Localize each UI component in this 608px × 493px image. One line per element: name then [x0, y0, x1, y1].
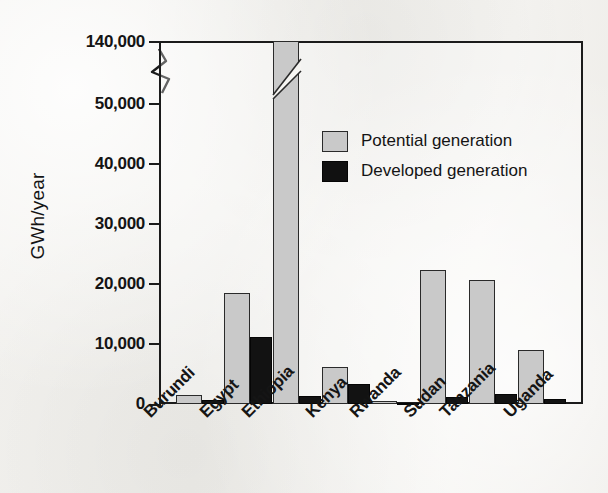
legend-item-potential: Potential generation [322, 126, 527, 156]
y-tick-label-140000: 140,000 [86, 32, 145, 51]
legend-swatch-developed-icon [322, 161, 348, 182]
y-tick-label-40000: 40,000 [95, 154, 145, 173]
bar-developed-uganda [544, 399, 566, 404]
legend: Potential generation Developed generatio… [322, 126, 527, 186]
legend-label-developed: Developed generation [361, 161, 527, 181]
y-tick-label-20000: 20,000 [95, 274, 145, 293]
legend-label-potential: Potential generation [361, 131, 512, 151]
y-tick-label-30000: 30,000 [95, 214, 145, 233]
legend-item-developed: Developed generation [322, 156, 527, 186]
legend-swatch-potential-icon [322, 131, 348, 152]
bar-chart: GWh/year 140,000 50,000 40,000 30,000 20… [0, 0, 608, 493]
y-tick-label-50000: 50,000 [95, 94, 145, 113]
y-tick-label-10000: 10,000 [95, 334, 145, 353]
bar-break-slash-ethiopia [271, 55, 303, 99]
